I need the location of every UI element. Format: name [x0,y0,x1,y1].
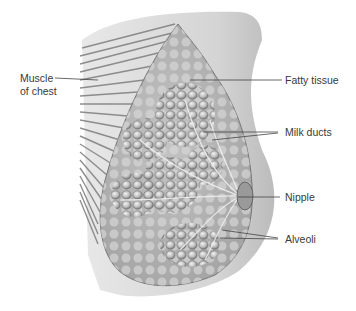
label-fatty-tissue: Fatty tissue [285,74,339,87]
breast-anatomy-diagram: Muscle of chest Fatty tissue Milk ducts … [0,0,356,311]
label-muscle-line1: Muscle [20,72,57,85]
label-muscle-line2: of chest [20,85,57,98]
label-milk-ducts: Milk ducts [285,126,332,139]
illustration [0,0,356,311]
label-alveoli: Alveoli [285,233,316,246]
label-muscle-of-chest: Muscle of chest [20,72,57,98]
nipple-shape [237,182,253,210]
label-nipple: Nipple [285,191,315,204]
